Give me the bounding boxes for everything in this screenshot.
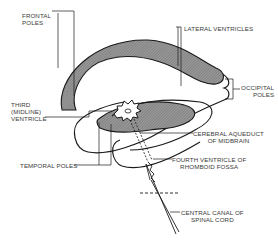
label-line: OCCIPITAL <box>241 84 274 91</box>
label-temporal-poles: TEMPORAL POLES <box>20 162 78 169</box>
label-line: VENTRICLE <box>11 115 47 122</box>
label-line: (MIDLINE) <box>11 108 47 115</box>
label-fourth-ventricle: FOURTH VENTRICLE OF RHOMBOID FOSSA <box>172 156 246 170</box>
label-line: POLES <box>22 19 51 26</box>
label-cerebral-aqueduct: CEREBRAL AQUEDUCT OF MIDBRAIN <box>193 130 264 144</box>
label-line: CEREBRAL AQUEDUCT <box>193 130 264 137</box>
lateral-ventricle-body <box>61 40 223 110</box>
label-frontal-poles: FRONTAL POLES <box>22 12 51 26</box>
label-third-ventricle: THIRD (MIDLINE) VENTRICLE <box>11 101 47 122</box>
label-line: CENTRAL CANAL OF <box>181 209 244 216</box>
ventricular-system-diagram: FRONTAL POLES LATERAL VENTRICLES OCCIPIT… <box>0 0 278 242</box>
label-line: FRONTAL <box>22 12 51 19</box>
label-occipital-poles: OCCIPITAL POLES <box>241 84 274 98</box>
temporal-horn <box>97 102 195 132</box>
label-line: SPINAL CORD <box>181 216 244 223</box>
label-central-canal: CENTRAL CANAL OF SPINAL CORD <box>181 209 244 223</box>
label-line: RHOMBOID FOSSA <box>172 163 246 170</box>
label-lateral-ventricles: LATERAL VENTRICLES <box>184 25 253 32</box>
label-line: THIRD <box>11 101 47 108</box>
label-line: POLES <box>241 91 274 98</box>
label-line: OF MIDBRAIN <box>193 137 264 144</box>
label-line: FOURTH VENTRICLE OF <box>172 156 246 163</box>
